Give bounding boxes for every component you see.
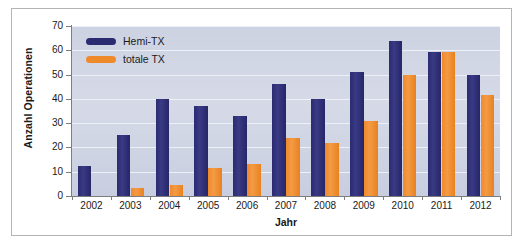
bar-totale-tx-2004 — [170, 185, 184, 196]
y-tick-label: 0 — [3, 191, 63, 201]
x-tick-label-2009: 2009 — [344, 200, 383, 212]
y-tick-mark — [66, 147, 71, 148]
bar-totale-tx-2005 — [208, 168, 222, 196]
y-tick: 0 — [0, 191, 63, 201]
bar-totale-tx-2010 — [403, 75, 417, 196]
y-tick-label: 30 — [3, 118, 63, 128]
y-tick-label: 70 — [3, 21, 63, 31]
bar-totale-tx-2007 — [286, 138, 300, 196]
chart-figure: Anzahl Operationen 010203040506070 20022… — [0, 0, 525, 250]
y-tick-mark — [66, 196, 71, 197]
bar-hemi-tx-2005 — [194, 106, 208, 196]
y-tick-mark — [66, 50, 71, 51]
x-tick-label-2005: 2005 — [189, 200, 228, 212]
bar-totale-tx-2006 — [247, 164, 261, 196]
y-tick: 30 — [0, 118, 63, 128]
y-tick-mark — [66, 75, 71, 76]
bar-hemi-tx-2007 — [272, 84, 286, 196]
bar-totale-tx-2003 — [131, 188, 145, 197]
y-tick: 10 — [0, 167, 63, 177]
bar-hemi-tx-2008 — [311, 99, 325, 196]
legend-swatch-icon — [86, 56, 116, 63]
bar-hemi-tx-2010 — [389, 41, 403, 196]
bar-hemi-tx-2012 — [467, 75, 481, 196]
y-tick-mark — [66, 172, 71, 173]
bar-totale-tx-2008 — [325, 143, 339, 196]
x-tick-label-2011: 2011 — [422, 200, 461, 212]
legend-label: Hemi-TX — [123, 35, 164, 47]
plot-area — [72, 26, 500, 196]
x-tick-label-2002: 2002 — [72, 200, 111, 212]
x-tick-label-2010: 2010 — [383, 200, 422, 212]
y-tick-label: 10 — [3, 167, 63, 177]
x-tick-label-2003: 2003 — [111, 200, 150, 212]
bar-totale-tx-2012 — [481, 95, 495, 196]
y-tick-label: 40 — [3, 94, 63, 104]
bar-totale-tx-2009 — [364, 121, 378, 196]
x-tick-label-2006: 2006 — [228, 200, 267, 212]
y-tick: 40 — [0, 94, 63, 104]
legend-label: totale TX — [123, 53, 165, 65]
y-tick: 70 — [0, 21, 63, 31]
x-tick-label-2008: 2008 — [305, 200, 344, 212]
bar-totale-tx-2011 — [442, 52, 456, 197]
x-axis-title: Jahr — [72, 216, 500, 228]
y-tick: 50 — [0, 70, 63, 80]
bar-hemi-tx-2004 — [156, 99, 170, 196]
x-tick-mark — [500, 196, 501, 200]
bar-hemi-tx-2009 — [350, 72, 364, 196]
bar-hemi-tx-2003 — [117, 135, 131, 196]
y-tick-mark — [66, 99, 71, 100]
y-tick-mark — [66, 26, 71, 27]
y-tick-label: 50 — [3, 70, 63, 80]
x-tick-label-2004: 2004 — [150, 200, 189, 212]
legend-swatch-icon — [86, 38, 116, 45]
y-tick-label: 20 — [3, 142, 63, 152]
bar-hemi-tx-2006 — [233, 116, 247, 196]
bar-hemi-tx-2011 — [428, 52, 442, 197]
y-tick: 60 — [0, 45, 63, 55]
y-tick: 20 — [0, 142, 63, 152]
bar-hemi-tx-2002 — [78, 166, 92, 196]
gridline — [72, 26, 500, 27]
y-axis-line — [71, 25, 72, 197]
x-tick-label-2012: 2012 — [461, 200, 500, 212]
x-tick-label-2007: 2007 — [267, 200, 306, 212]
y-tick-label: 60 — [3, 45, 63, 55]
x-axis-line — [71, 196, 501, 197]
y-tick-mark — [66, 123, 71, 124]
